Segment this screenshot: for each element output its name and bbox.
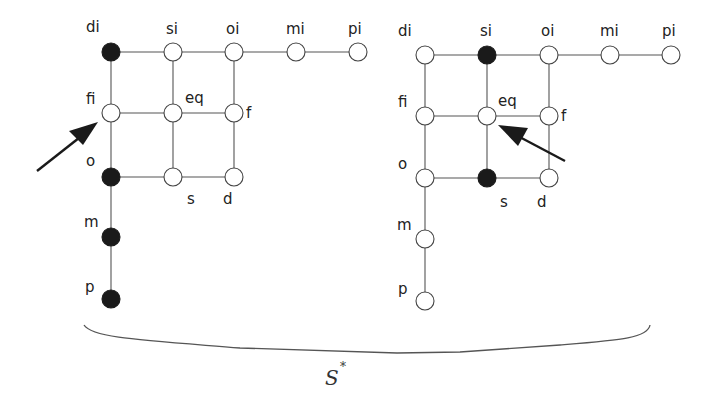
right-node-pi	[662, 46, 680, 64]
left-label-oi: oi	[226, 20, 239, 38]
right-label-d: d	[537, 193, 547, 211]
figure-caption: S *	[325, 360, 346, 390]
left-node-p	[102, 290, 120, 308]
right-node-di	[416, 46, 434, 64]
left-label-si: si	[166, 20, 178, 38]
caption-superscript: *	[340, 360, 346, 374]
right-label-p: p	[398, 280, 408, 298]
left-node-eq	[164, 104, 182, 122]
right-label-s: s	[500, 193, 508, 211]
right-lattice: di si oi mi pi fi eq f o s d m p	[397, 22, 680, 310]
right-label-di: di	[398, 22, 412, 40]
left-node-f	[225, 104, 243, 122]
right-node-eq	[478, 107, 496, 125]
left-label-s: s	[187, 190, 195, 208]
right-node-mi	[601, 46, 619, 64]
left-node-o	[102, 168, 120, 186]
left-node-di	[102, 43, 120, 61]
right-node-s	[478, 169, 496, 187]
left-node-si	[164, 43, 182, 61]
left-node-d	[225, 168, 243, 186]
left-lattice: di si oi mi pi fi eq f o s d m p	[37, 18, 367, 308]
left-label-pi: pi	[348, 20, 362, 38]
left-label-o: o	[86, 152, 95, 170]
left-node-s	[164, 168, 182, 186]
left-node-m	[102, 228, 120, 246]
right-node-fi	[416, 107, 434, 125]
left-label-f: f	[246, 104, 252, 122]
right-node-f	[540, 107, 558, 125]
right-node-si	[478, 46, 496, 64]
left-label-mi: mi	[286, 20, 305, 38]
left-label-d: d	[223, 190, 233, 208]
left-label-m: m	[84, 213, 99, 231]
right-node-m	[416, 230, 434, 248]
right-label-f: f	[561, 107, 567, 125]
right-label-pi: pi	[662, 22, 676, 40]
left-label-di: di	[86, 18, 100, 36]
right-node-p	[416, 292, 434, 310]
left-node-oi	[225, 43, 243, 61]
right-label-si: si	[480, 22, 492, 40]
right-label-m: m	[397, 216, 412, 234]
left-node-pi	[349, 43, 367, 61]
left-label-fi: fi	[86, 90, 95, 108]
right-label-fi: fi	[398, 93, 407, 111]
right-label-eq: eq	[498, 92, 517, 110]
right-node-o	[416, 169, 434, 187]
left-node-fi	[102, 104, 120, 122]
left-label-eq: eq	[185, 89, 204, 107]
right-arrow-icon	[498, 125, 565, 161]
interval-lattice-figure: di si oi mi pi fi eq f o s d m p	[0, 0, 711, 402]
right-label-o: o	[398, 155, 407, 173]
right-node-oi	[540, 46, 558, 64]
right-node-d	[540, 169, 558, 187]
caption-symbol: S	[325, 366, 339, 390]
right-label-mi: mi	[600, 22, 619, 40]
right-label-oi: oi	[541, 22, 554, 40]
left-label-p: p	[85, 278, 95, 296]
grouping-brace	[84, 325, 650, 353]
left-node-mi	[287, 43, 305, 61]
